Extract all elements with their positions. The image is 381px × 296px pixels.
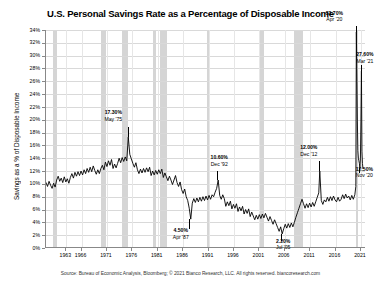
x-axis-tick [309,248,310,251]
x-axis-tick [106,248,107,251]
y-axis-tick [42,120,45,121]
annotation-date: Dec '92 [205,161,233,168]
data-point-annotation: 10.60%Dec '92 [205,154,233,167]
y-axis-tick [42,184,45,185]
x-axis-tick [360,248,361,251]
y-axis-tick-label: 22% [2,105,40,110]
y-axis-tick-label: 24% [2,92,40,97]
y-axis-tick-label: 20% [2,117,40,122]
annotation-leader-line [189,219,190,229]
y-axis-tick-label: 6% [2,207,40,212]
y-axis-tick [42,107,45,108]
y-axis-tick-label: 2% [2,233,40,238]
x-axis-tick [182,248,183,251]
y-axis-tick [42,222,45,223]
y-axis-tick [42,94,45,95]
x-axis-tick-label: 2021 [340,253,380,258]
y-axis-tick [42,210,45,211]
y-axis-tick [42,81,45,82]
annotation-leader-line [359,168,360,173]
annotation-leader-line [281,234,282,241]
x-axis-tick [157,248,158,251]
data-point-annotation: 27.60%Mar '21 [351,51,379,64]
y-axis-tick-label: 34% [2,28,40,33]
x-axis-tick [81,248,82,251]
annotation-date: Mar '21 [351,58,379,65]
savings-rate-line [46,30,365,248]
y-axis-tick [42,30,45,31]
y-axis-tick [42,56,45,57]
annotation-leader-line [361,65,362,71]
data-point-annotation: 12.00%Dec '12 [295,144,323,157]
y-axis-tick [42,171,45,172]
y-axis-tick-label: 28% [2,66,40,71]
y-axis-tick [42,197,45,198]
x-axis-tick [233,248,234,251]
annotation-date: Dec '12 [295,151,323,158]
annotation-leader-line [319,161,320,171]
y-axis-tick [42,158,45,159]
savings-rate-chart: U.S. Personal Savings Rate as a Percenta… [0,0,381,296]
x-axis-tick [65,248,66,251]
data-point-annotation: 4.50%Apr '87 [167,227,195,240]
y-axis-tick-label: 4% [2,220,40,225]
y-axis-tick [42,248,45,249]
x-axis-tick [335,248,336,251]
annotation-date: Apr '87 [167,234,195,241]
data-point-annotation: 12.50%Nov '20 [350,166,378,179]
y-axis-tick [42,235,45,236]
y-axis-tick-label: 32% [2,40,40,45]
x-axis-tick [208,248,209,251]
annotation-leader-line [128,127,129,137]
x-axis-tick [131,248,132,251]
source-note: Source: Bureau of Economic Analysis, Blo… [0,271,381,276]
y-axis-tick [42,133,45,134]
y-axis-tick-label: 10% [2,181,40,186]
y-axis-tick [42,145,45,146]
annotation-leader-line [217,171,218,180]
data-point-annotation: 33.70%Apr '20 [320,10,348,23]
y-axis-tick [42,68,45,69]
y-axis-tick-label: 0% [2,246,40,251]
plot-area [45,30,365,248]
data-point-annotation: 2.20%Jul '05 [269,238,297,251]
y-axis-tick-label: 8% [2,194,40,199]
y-axis-tick-label: 16% [2,143,40,148]
x-axis-tick [258,248,259,251]
annotation-date: Nov '20 [350,172,378,179]
y-axis-tick-label: 12% [2,169,40,174]
annotation-date: Jul '05 [269,244,297,251]
annotation-date: Apr '20 [320,16,348,23]
y-axis-tick-label: 14% [2,156,40,161]
annotation-leader-line [356,26,357,32]
annotation-date: May '75 [99,116,127,123]
y-axis-tick [42,43,45,44]
data-point-annotation: 17.30%May '75 [99,109,127,122]
y-axis-tick-label: 26% [2,79,40,84]
y-axis-tick-label: 18% [2,130,40,135]
y-axis-tick-label: 30% [2,53,40,58]
